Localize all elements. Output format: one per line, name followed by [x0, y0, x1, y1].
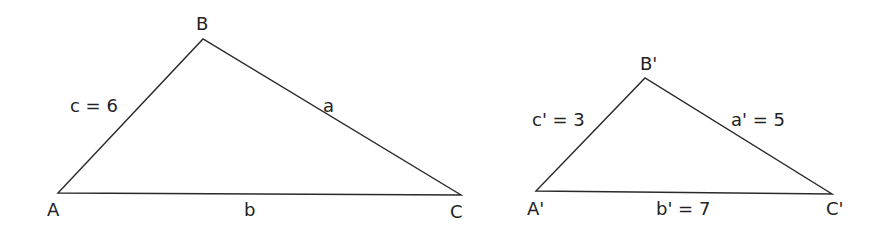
side-label-a: a — [323, 95, 334, 116]
vertex-label-b: B — [196, 13, 208, 34]
vertex-label-a-prime: A' — [527, 198, 544, 219]
side-label-b: b — [244, 199, 255, 220]
vertex-label-b-prime: B' — [640, 53, 657, 74]
side-label-b-prime: b' = 7 — [656, 198, 710, 219]
triangle-abc: B A C c = 6 a b — [47, 13, 463, 222]
triangle-abc-prime-outline — [536, 78, 832, 194]
vertex-label-c-prime: C' — [826, 198, 844, 219]
vertex-label-c: C — [450, 201, 463, 222]
vertex-label-a: A — [47, 199, 60, 220]
triangle-abc-outline — [58, 39, 461, 195]
side-label-a-prime: a' = 5 — [731, 109, 785, 130]
side-label-c: c = 6 — [70, 95, 118, 116]
similar-triangles-diagram: B A C c = 6 a b B' A' C' c' = 3 a' = 5 b… — [0, 0, 880, 229]
triangle-abc-prime: B' A' C' c' = 3 a' = 5 b' = 7 — [527, 53, 844, 219]
side-label-c-prime: c' = 3 — [532, 109, 585, 130]
